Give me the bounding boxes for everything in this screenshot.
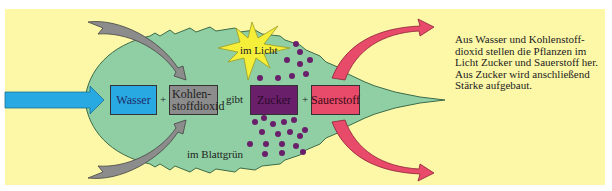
- sauerstoff-label: Sauerstoff: [311, 94, 360, 106]
- wasser-label: Wasser: [116, 94, 150, 106]
- caption-line: Licht Zucker und Sauerstoff her.: [455, 57, 605, 69]
- sauerstoff-box: Sauerstoff: [311, 85, 360, 115]
- wasser-box: Wasser: [110, 85, 157, 115]
- plus-operator-2: +: [302, 93, 308, 105]
- kohlenstoffdioxid-label-line2: stoffdioxid: [172, 100, 224, 112]
- zucker-label: Zucker: [257, 94, 291, 106]
- caption-line: Stärke aufgebaut.: [455, 80, 605, 92]
- caption-line: Aus Wasser und Kohlenstoff-: [455, 34, 605, 46]
- chlorophyll-label: im Blattgrün: [187, 148, 243, 160]
- zucker-box: Zucker: [250, 85, 298, 115]
- light-label: im Licht: [240, 44, 278, 56]
- o2-arrow-bottom-icon: [332, 120, 434, 181]
- gibt-label: gibt: [226, 93, 243, 105]
- caption-text: Aus Wasser und Kohlenstoff- dioxid stell…: [455, 34, 605, 92]
- kohlenstoffdioxid-box: Kohlen- stoffdioxid: [169, 85, 218, 115]
- plus-operator-1: +: [160, 93, 166, 105]
- o2-arrow-top-icon: [332, 19, 434, 80]
